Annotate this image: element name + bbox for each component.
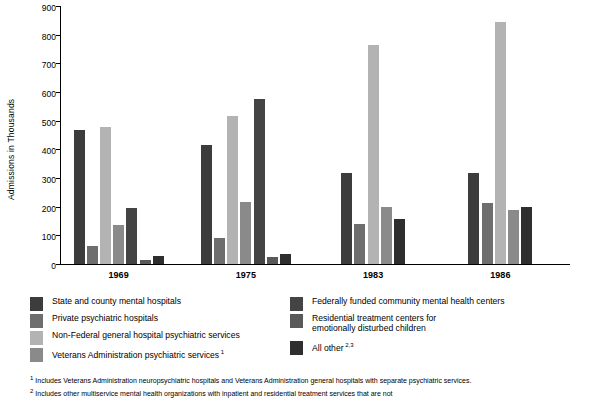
bar	[354, 224, 365, 264]
bar	[508, 210, 519, 264]
bar	[240, 202, 251, 264]
bar	[341, 173, 352, 264]
legend-label: Non-Federal general hospital psychiatric…	[52, 330, 240, 340]
y-tick-label: 200	[22, 204, 56, 214]
legend-item: Federally funded community mental health…	[290, 296, 580, 313]
y-tick-label: 300	[22, 175, 56, 185]
legend-swatch	[290, 297, 303, 311]
x-group-label: 1983	[363, 270, 383, 280]
legend-footnote-ref: 1	[219, 349, 224, 355]
footnote: 2 Includes other multiservice mental hea…	[30, 387, 570, 399]
y-tick-mark	[56, 35, 60, 36]
y-tick-mark	[56, 178, 60, 179]
x-axis-line	[60, 264, 570, 265]
bar	[227, 116, 238, 264]
y-tick-label: 600	[22, 89, 56, 99]
footnotes: 1 Includes Veterans Administration neuro…	[30, 374, 570, 400]
legend-label: All other 2,3	[312, 340, 354, 353]
legend-column-left: State and county mental hospitalsPrivate…	[30, 296, 310, 364]
x-group-label: 1969	[109, 270, 129, 280]
y-tick-mark	[56, 92, 60, 93]
x-group-label: 1975	[236, 270, 256, 280]
bar	[280, 254, 291, 264]
footnote-number: 1	[30, 375, 33, 381]
x-group-label: 1986	[490, 270, 510, 280]
y-tick-label: 900	[22, 3, 56, 13]
legend-swatch	[290, 314, 303, 328]
y-tick-label: 100	[22, 232, 56, 242]
y-tick-label: 800	[22, 32, 56, 42]
y-tick-mark	[56, 207, 60, 208]
legend-label: Private psychiatric hospitals	[52, 313, 158, 323]
plot-area: Admissions in Thousands 0100200300400500…	[0, 0, 589, 290]
y-tick-label: 400	[22, 146, 56, 156]
y-tick-label: 0	[22, 261, 56, 271]
y-tick-mark	[56, 6, 60, 7]
bar	[495, 22, 506, 264]
bar	[468, 173, 479, 264]
legend-label: State and county mental hospitals	[52, 296, 181, 306]
bars-layer	[61, 6, 570, 264]
y-axis-label: Admissions in Thousands	[6, 0, 16, 60]
y-tick-mark	[56, 63, 60, 64]
legend-swatch	[30, 348, 43, 362]
legend-label: Veterans Administration psychiatric serv…	[52, 347, 224, 360]
legend-label: Residential treatment centers for emotio…	[312, 313, 436, 333]
bar	[74, 130, 85, 264]
y-tick-mark	[56, 121, 60, 122]
legend-swatch	[290, 341, 303, 355]
bar	[87, 246, 98, 264]
legend-footnote-ref: 2,3	[344, 342, 354, 348]
bar	[267, 257, 278, 264]
legend-swatch	[30, 297, 43, 311]
bar	[214, 238, 225, 264]
bar	[126, 208, 137, 264]
legend-item: All other 2,3	[290, 340, 580, 357]
bar	[521, 207, 532, 264]
legend-item: State and county mental hospitals	[30, 296, 310, 313]
bar	[254, 99, 265, 264]
bar	[153, 256, 164, 264]
legend-swatch	[30, 331, 43, 345]
legend-column-right: Federally funded community mental health…	[290, 296, 580, 357]
legend: State and county mental hospitalsPrivate…	[0, 296, 589, 366]
bar	[113, 225, 124, 264]
legend-item: Non-Federal general hospital psychiatric…	[30, 330, 310, 347]
footnote: 1 Includes Veterans Administration neuro…	[30, 374, 570, 386]
bar	[140, 260, 151, 264]
legend-item: Veterans Administration psychiatric serv…	[30, 347, 310, 364]
y-tick-mark	[56, 149, 60, 150]
bar	[394, 219, 405, 264]
bar	[100, 127, 111, 264]
y-tick-mark	[56, 264, 60, 265]
y-tick-label: 700	[22, 60, 56, 70]
bar	[368, 45, 379, 264]
footnote-number: 2	[30, 388, 33, 394]
chart-container: Admissions in Thousands 0100200300400500…	[0, 0, 589, 419]
bar	[482, 203, 493, 264]
legend-item: Residential treatment centers for emotio…	[290, 313, 580, 340]
y-tick-mark	[56, 235, 60, 236]
y-tick-label: 500	[22, 118, 56, 128]
bar	[381, 207, 392, 264]
legend-swatch	[30, 314, 43, 328]
y-axis-ticks: 0100200300400500600700800900	[22, 8, 56, 266]
legend-item: Private psychiatric hospitals	[30, 313, 310, 330]
legend-label: Federally funded community mental health…	[312, 296, 505, 306]
bar	[201, 145, 212, 264]
